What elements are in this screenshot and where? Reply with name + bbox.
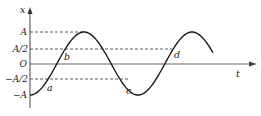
shm-graph: x t A A/2 O −A/2 −A a b c d — [0, 0, 261, 116]
t-axis-arrow-icon — [249, 62, 257, 67]
x-axis-label: x — [20, 4, 26, 15]
point-a-label: a — [47, 82, 53, 93]
reference-lines — [30, 32, 172, 79]
tick-A: A — [20, 27, 28, 37]
tick-A-half: A/2 — [12, 44, 29, 54]
t-axis-label: t — [236, 68, 240, 79]
tick-neg-A-half: −A/2 — [5, 74, 28, 84]
point-c-label: c — [126, 85, 132, 96]
tick-O: O — [20, 59, 28, 69]
point-b-label: b — [64, 51, 70, 62]
x-axis-arrow-icon — [28, 7, 33, 14]
point-d-label: d — [174, 49, 180, 60]
tick-neg-A: −A — [13, 90, 28, 100]
